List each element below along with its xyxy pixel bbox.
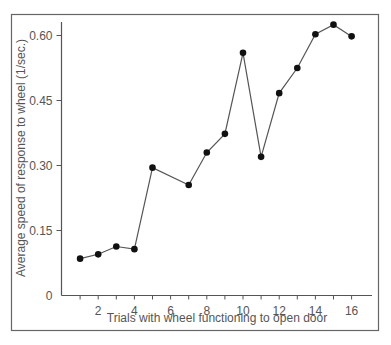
line-chart: 00.150.300.450.60 246810121416 Trials wi…: [0, 0, 391, 345]
x-tick-label: 2: [95, 304, 102, 318]
data-point: [131, 246, 138, 253]
data-point: [222, 131, 229, 138]
data-point: [149, 164, 156, 171]
data-point: [258, 154, 265, 161]
data-point: [348, 33, 355, 40]
data-point: [77, 255, 84, 262]
data-point: [330, 21, 337, 28]
y-axis-title: Average speed of response to wheel (1/se…: [14, 39, 28, 277]
y-axis: 00.150.300.450.60: [29, 22, 61, 303]
data-point: [312, 31, 319, 38]
y-tick-label: 0.45: [29, 94, 53, 108]
y-tick-label: 0.60: [29, 29, 53, 43]
data-series: [77, 21, 355, 262]
data-point: [95, 251, 102, 258]
y-tick-label: 0.15: [29, 224, 53, 238]
data-point: [204, 149, 211, 156]
series-line: [80, 25, 352, 259]
y-tick-label: 0.30: [29, 159, 53, 173]
data-point: [240, 50, 247, 57]
data-point: [113, 243, 120, 250]
x-axis-title: Trials with wheel functioning to open do…: [107, 311, 327, 325]
data-point: [294, 65, 301, 72]
y-tick-label: 0: [46, 289, 53, 303]
data-point: [276, 90, 283, 97]
data-point: [185, 182, 192, 189]
x-tick-label: 16: [345, 304, 359, 318]
